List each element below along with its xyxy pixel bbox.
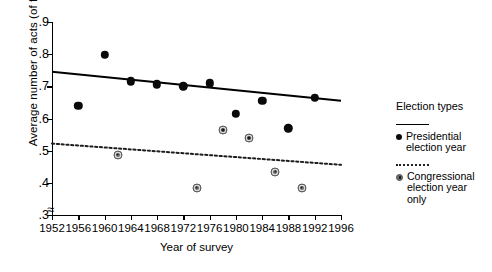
y-tick-label: .7 xyxy=(39,79,49,93)
data-point-congressional xyxy=(271,167,280,176)
plot-area: .3.4.5.6.7.8.9 1952195619601964196819721… xyxy=(52,22,341,215)
x-tick-label: 1996 xyxy=(328,222,354,234)
x-tick-mark xyxy=(78,215,79,220)
x-tick-label: 1972 xyxy=(171,222,197,234)
legend-entry-presidential: Presidential election year xyxy=(396,121,492,154)
legend-label-congressional: Congressional election year only xyxy=(407,171,492,206)
x-tick-label: 1988 xyxy=(276,222,302,234)
x-tick-mark xyxy=(341,215,342,220)
chart-legend: Election types Presidential election yea… xyxy=(396,101,492,213)
legend-title: Election types xyxy=(396,101,492,113)
chart-figure: Average number of acts (of five) .3.4.5.… xyxy=(0,0,492,272)
x-tick-label: 1956 xyxy=(65,222,91,234)
legend-marker-presidential-icon xyxy=(396,134,402,140)
legend-swatch-dotted-line xyxy=(396,161,492,169)
x-tick-mark xyxy=(262,215,263,220)
x-tick-mark xyxy=(236,215,237,220)
y-tick-label: .8 xyxy=(39,47,49,61)
x-axis-line xyxy=(52,215,342,216)
legend-marker-congressional-icon xyxy=(396,174,403,181)
x-tick-label: 1992 xyxy=(302,222,328,234)
y-axis-title: Average number of acts (of five) xyxy=(27,0,39,158)
legend-label-presidential-line2: election year xyxy=(406,142,492,154)
y-tick-label: .6 xyxy=(39,112,49,126)
x-tick-label: 1968 xyxy=(144,222,170,234)
y-tick-label: .4 xyxy=(39,176,49,190)
legend-entry-congressional: Congressional election year only xyxy=(396,161,492,206)
data-point-congressional xyxy=(245,133,254,142)
data-point-congressional xyxy=(218,125,227,134)
x-tick-mark xyxy=(210,215,211,220)
legend-label-congressional-line3: only xyxy=(407,194,492,206)
y-tick-label: .5 xyxy=(39,144,49,158)
x-axis-title: Year of survey xyxy=(52,241,341,253)
data-point-congressional xyxy=(192,183,201,192)
trend-line-presidential xyxy=(52,72,341,101)
x-tick-mark xyxy=(157,215,158,220)
x-tick-label: 1984 xyxy=(249,222,275,234)
legend-swatch-solid-line xyxy=(396,121,492,129)
y-tick-label: .9 xyxy=(39,15,49,29)
x-tick-mark xyxy=(183,215,184,220)
x-tick-label: 1964 xyxy=(118,222,144,234)
x-tick-mark xyxy=(315,215,316,220)
x-tick-label: 1976 xyxy=(197,222,223,234)
x-tick-label: 1952 xyxy=(39,222,65,234)
data-point-congressional xyxy=(113,150,122,159)
data-point-congressional xyxy=(297,183,306,192)
legend-label-presidential: Presidential election year xyxy=(406,131,492,154)
x-tick-label: 1960 xyxy=(92,222,118,234)
x-tick-mark xyxy=(105,215,106,220)
x-tick-mark xyxy=(288,215,289,220)
x-tick-mark xyxy=(131,215,132,220)
trend-line-congressional xyxy=(52,144,341,165)
x-tick-label: 1980 xyxy=(223,222,249,234)
